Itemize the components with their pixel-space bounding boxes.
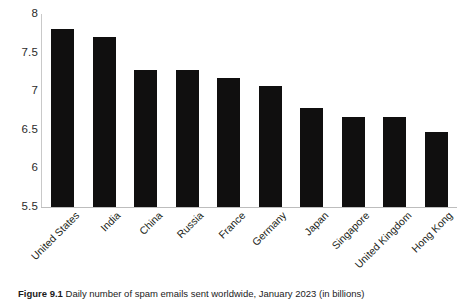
figure-container: 5.566.577.58 United StatesIndiaChinaRuss… — [0, 0, 464, 301]
y-axis-tick-7: 7 — [10, 85, 38, 96]
x-axis-label-text: Germany — [250, 209, 289, 248]
bar-slot — [374, 14, 416, 207]
bar — [342, 117, 365, 207]
caption-description: Daily number of spam emails sent worldwi… — [63, 288, 365, 299]
x-axis-label-france: France — [216, 209, 248, 241]
x-axis-label-india: India — [98, 209, 123, 234]
x-axis-label-germany: Germany — [250, 209, 289, 248]
bar — [51, 29, 74, 207]
bar-slot — [167, 14, 209, 207]
x-axis-label-text: India — [98, 209, 123, 234]
bar-series — [42, 14, 457, 207]
y-axis-tick-8: 8 — [10, 8, 38, 19]
x-axis-label-text: France — [216, 209, 248, 241]
x-axis-line — [41, 207, 457, 208]
bar — [134, 70, 157, 207]
y-axis-tick-7.5: 7.5 — [10, 47, 38, 58]
y-axis-tick-6.5: 6.5 — [10, 124, 38, 135]
bar-chart: 5.566.577.58 United StatesIndiaChinaRuss… — [0, 0, 464, 215]
x-axis-label-china: China — [136, 209, 164, 237]
x-axis-label-text: Russia — [175, 209, 206, 240]
x-axis-label-text: China — [136, 209, 164, 237]
x-axis-label-united-states: United States — [28, 209, 81, 262]
bar — [93, 37, 116, 207]
bar — [217, 78, 240, 207]
bar-slot — [291, 14, 333, 207]
bar-slot — [125, 14, 167, 207]
x-axis-label-text: Japan — [302, 209, 331, 238]
bar — [425, 132, 448, 207]
y-axis-tick-6: 6 — [10, 162, 38, 173]
y-axis-tick-labels: 5.566.577.58 — [4, 0, 38, 215]
bar-slot — [333, 14, 375, 207]
figure-caption: Figure 9.1 Daily number of spam emails s… — [18, 288, 458, 300]
bar-slot — [250, 14, 292, 207]
x-axis-label-hong-kong: Hong Kong — [409, 209, 455, 255]
x-axis-label-singapore: Singapore — [329, 209, 371, 251]
bar-slot — [42, 14, 84, 207]
x-axis-label-text: United States — [28, 209, 81, 262]
x-axis-label-japan: Japan — [302, 209, 331, 238]
bar — [176, 70, 199, 207]
bar — [259, 86, 282, 207]
x-axis-label-russia: Russia — [175, 209, 206, 240]
bar-slot — [416, 14, 458, 207]
bar — [300, 108, 323, 207]
bar-slot — [84, 14, 126, 207]
bar — [383, 117, 406, 207]
x-axis-category-labels: United StatesIndiaChinaRussiaFranceGerma… — [0, 209, 464, 281]
x-axis-label-text: Hong Kong — [409, 209, 455, 255]
x-axis-label-text: Singapore — [329, 209, 371, 251]
bar-slot — [208, 14, 250, 207]
caption-figure-number: Figure 9.1 — [18, 288, 63, 299]
